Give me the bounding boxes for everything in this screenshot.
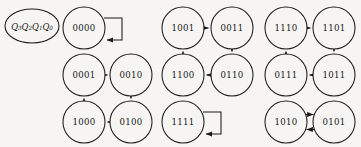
self-loop-path-0000: [104, 18, 122, 40]
self-loop-1111: [203, 112, 221, 134]
state-transition-diagram: Q3Q2Q1Q0: [0, 0, 361, 147]
node-label: 0110: [221, 70, 244, 80]
node-1010[interactable]: 1010: [265, 101, 307, 143]
legend-node: Q3Q2Q1Q0: [5, 9, 59, 43]
node-0111[interactable]: 0111: [265, 54, 307, 96]
node-1001[interactable]: 1001: [162, 7, 204, 49]
node-0000[interactable]: 0000: [63, 7, 105, 49]
node-label: 0011: [221, 23, 244, 33]
node-label: 0101: [323, 117, 346, 127]
self-loop-path-1111: [203, 112, 221, 134]
fsm-canvas: Q3Q2Q1Q0: [0, 0, 361, 147]
node-1000[interactable]: 1000: [63, 101, 105, 143]
node-1101[interactable]: 1101: [313, 7, 355, 49]
node-1011[interactable]: 1011: [313, 54, 355, 96]
node-0010[interactable]: 0010: [110, 54, 152, 96]
node-label: 0010: [120, 70, 143, 80]
node-label: 1000: [73, 117, 96, 127]
node-label: 1011: [323, 70, 346, 80]
node-0110[interactable]: 0110: [211, 54, 253, 96]
node-label: 1010: [275, 117, 298, 127]
node-1111[interactable]: 1111: [162, 101, 204, 143]
node-0101[interactable]: 0101: [313, 101, 355, 143]
node-0100[interactable]: 0100: [110, 101, 152, 143]
legend-label: Q3Q2Q1Q0: [11, 21, 53, 31]
node-label: 1100: [172, 70, 195, 80]
node-1100[interactable]: 1100: [162, 54, 204, 96]
node-0001[interactable]: 0001: [63, 54, 105, 96]
node-label: 0001: [73, 70, 96, 80]
node-label: 0111: [275, 70, 298, 80]
node-label: 1111: [172, 117, 195, 127]
node-label: 1001: [172, 23, 195, 33]
node-label: 1110: [275, 23, 298, 33]
node-label: 0000: [73, 23, 96, 33]
node-1110[interactable]: 1110: [265, 7, 307, 49]
node-0011[interactable]: 0011: [211, 7, 253, 49]
node-label: 0100: [120, 117, 143, 127]
self-loop-0000: [104, 18, 122, 40]
node-label: 1101: [323, 23, 346, 33]
